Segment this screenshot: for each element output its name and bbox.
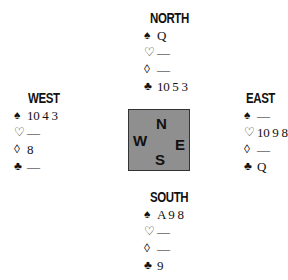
west-heading: WEST (28, 90, 60, 106)
west-spades: 10 4 3 (27, 107, 58, 124)
west-hearts-row: ♡ — (14, 124, 66, 141)
east-heading: EAST (246, 90, 280, 106)
east-hand: EAST ♠ — ♡ 10 9 8 ◊ — ♣ Q (244, 90, 288, 175)
north-hearts-row: ♡ — (144, 44, 197, 61)
east-diamonds-row: ◊ — (244, 141, 288, 158)
east-spades-row: ♠ — (244, 107, 288, 124)
heart-icon: ♡ (14, 124, 27, 141)
spade-icon: ♠ (14, 107, 27, 124)
club-icon: ♣ (144, 257, 157, 274)
west-diamonds: 8 (27, 141, 33, 158)
west-hearts: — (27, 124, 40, 141)
club-icon: ♣ (144, 78, 157, 95)
diamond-icon: ◊ (14, 141, 27, 158)
west-hand: WEST ♠ 10 4 3 ♡ — ◊ 8 ♣ — (14, 90, 66, 175)
north-heading: NORTH (150, 10, 189, 26)
spade-icon: ♠ (244, 107, 257, 124)
diamond-icon: ◊ (144, 61, 157, 78)
north-clubs-row: ♣ 10 5 3 (144, 78, 197, 95)
west-clubs-row: ♣ — (14, 158, 66, 175)
north-spades: Q (157, 27, 166, 44)
east-spades: — (257, 107, 270, 124)
south-spades-row: ♠ A 9 8 (144, 206, 197, 223)
north-diamonds-row: ◊ — (144, 61, 197, 78)
east-diamonds: — (257, 141, 270, 158)
north-spades-row: ♠ Q (144, 27, 197, 44)
club-icon: ♣ (244, 158, 257, 175)
south-diamonds-row: ◊ — (144, 240, 197, 257)
heart-icon: ♡ (144, 44, 157, 61)
west-diamonds-row: ◊ 8 (14, 141, 66, 158)
north-hearts: — (157, 44, 170, 61)
south-clubs: 9 (157, 257, 163, 274)
heart-icon: ♡ (144, 223, 157, 240)
west-clubs: — (27, 158, 40, 175)
south-hearts: — (157, 223, 170, 240)
north-clubs: 10 5 3 (157, 78, 188, 95)
north-diamonds: — (157, 61, 170, 78)
diamond-icon: ◊ (144, 240, 157, 257)
east-hearts: 10 9 8 (257, 124, 288, 141)
south-hearts-row: ♡ — (144, 223, 197, 240)
compass-east-label: E (175, 137, 185, 152)
compass-south-label: S (155, 152, 165, 167)
west-spades-row: ♠ 10 4 3 (14, 107, 66, 124)
club-icon: ♣ (14, 158, 27, 175)
compass-table: N W E S (128, 109, 190, 171)
south-hand: SOUTH ♠ A 9 8 ♡ — ◊ — ♣ 9 (144, 189, 197, 274)
compass-west-label: W (133, 133, 147, 148)
south-diamonds: — (157, 240, 170, 257)
east-clubs: Q (257, 158, 266, 175)
heart-icon: ♡ (244, 124, 257, 141)
north-hand: NORTH ♠ Q ♡ — ◊ — ♣ 10 5 3 (144, 10, 197, 95)
south-clubs-row: ♣ 9 (144, 257, 197, 274)
east-clubs-row: ♣ Q (244, 158, 288, 175)
east-hearts-row: ♡ 10 9 8 (244, 124, 288, 141)
south-spades: A 9 8 (157, 206, 184, 223)
spade-icon: ♠ (144, 206, 157, 223)
spade-icon: ♠ (144, 27, 157, 44)
compass-north-label: N (156, 116, 167, 131)
diamond-icon: ◊ (244, 141, 257, 158)
south-heading: SOUTH (150, 189, 188, 205)
